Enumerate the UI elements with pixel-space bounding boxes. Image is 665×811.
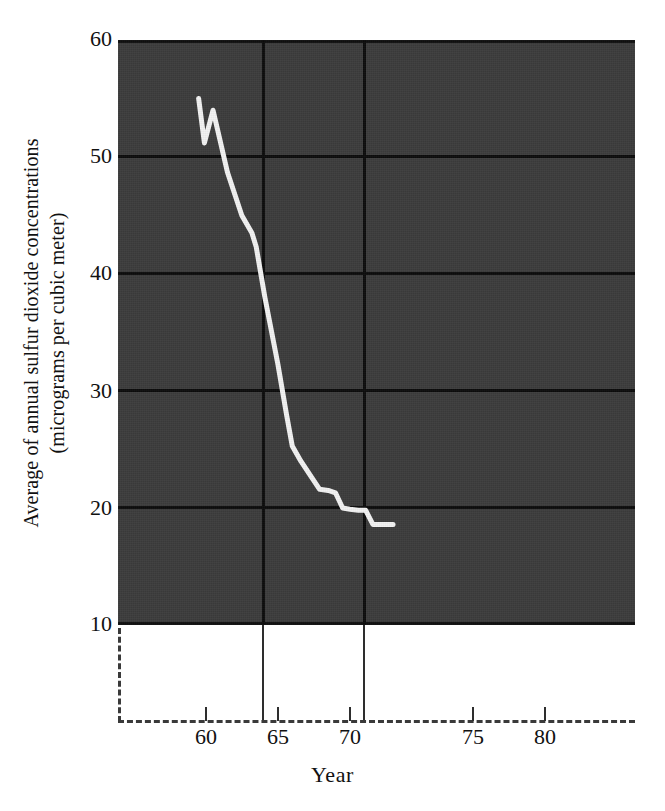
dashed-axis-horizontal [118,720,635,723]
y-tick-label-20: 20 [66,497,112,519]
y-tick-label-60: 60 [66,28,112,50]
y-tick-label-10: 10 [66,613,112,635]
data-series-line [118,40,635,625]
x-tick-75 [472,707,474,721]
sulfur-dioxide-line-chart: Average of annual sulfur dioxide concent… [0,0,665,811]
dashed-axis-vertical [118,628,121,722]
drop-line-year-64 [262,625,264,721]
plot-area [118,40,635,625]
y-tick-label-50: 50 [66,145,112,167]
y-tick-label-40: 40 [66,262,112,284]
x-tick-label-65: 65 [248,726,308,748]
x-tick-label-70: 70 [320,726,380,748]
reference-drop-lines [118,625,635,721]
x-tick-label-80: 80 [515,726,575,748]
x-tick-label-75: 75 [443,726,503,748]
x-tick-label-60: 60 [176,726,236,748]
x-tick-70 [349,707,351,721]
x-axis-title: Year [0,762,665,788]
y-tick-label-30: 30 [66,380,112,402]
x-tick-65 [277,707,279,721]
x-tick-80 [544,707,546,721]
y-axis-title-line-1: Average of annual sulfur dioxide concent… [18,138,44,527]
y-axis-tick-labels: 60 50 40 30 20 10 [62,0,112,811]
drop-line-year-71 [363,625,365,721]
x-tick-60 [205,707,207,721]
